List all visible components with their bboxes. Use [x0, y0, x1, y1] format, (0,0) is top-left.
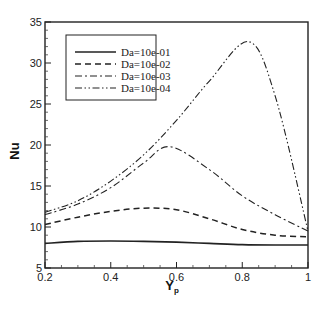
y-tick-label: 35	[30, 16, 42, 28]
x-axis-title-main: Y	[165, 278, 174, 293]
y-tick-label: 15	[30, 180, 42, 192]
y-tick-label: 10	[30, 221, 42, 233]
legend-label: Da=10e-02	[121, 58, 171, 70]
legend-label: Da=10e-03	[121, 70, 171, 82]
y-tick-label: 30	[30, 57, 42, 69]
line-chart: 51015202530350.20.40.60.81 Da=10e-01Da=1…	[0, 0, 323, 309]
series-line-3	[45, 147, 308, 232]
x-tick-label: 0.8	[235, 271, 250, 283]
x-tick-label: 1	[305, 271, 311, 283]
legend: Da=10e-01Da=10e-02Da=10e-03Da=10e-04	[66, 35, 171, 100]
x-axis-title-subscript: p	[174, 286, 179, 295]
legend-label: Da=10e-04	[121, 82, 171, 94]
x-tick-label: 0.4	[103, 271, 118, 283]
y-axis-title: Nu	[7, 142, 22, 159]
series-line-2	[45, 208, 308, 237]
y-tick-label: 25	[30, 98, 42, 110]
legend-label: Da=10e-01	[121, 46, 171, 58]
series-line-1	[45, 241, 308, 245]
x-tick-label: 0.2	[37, 271, 52, 283]
y-tick-label: 20	[30, 139, 42, 151]
